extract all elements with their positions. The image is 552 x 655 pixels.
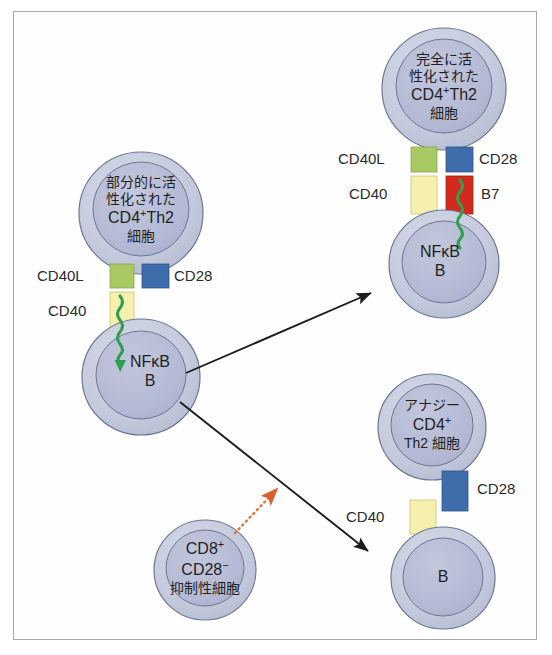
th2-full-th2: Th2: [449, 86, 477, 103]
anergy-cd4: CD4: [413, 416, 445, 433]
cd28-minus: −: [222, 559, 228, 571]
b-cell-unactivated-label: B: [438, 568, 449, 587]
cd40-label-top: CD40: [349, 186, 387, 201]
cd28-label-top: CD28: [479, 151, 517, 166]
cd40l-bar-left: [110, 264, 134, 288]
diagram-figure: 部分的に活 性化された CD4+Th2 細胞 NFκB B 完全に活 性化された…: [0, 0, 552, 655]
anergy-line3: Th2 細胞: [404, 435, 460, 452]
anergy-line1: アナジー: [404, 397, 460, 414]
th2-partial-th2: Th2: [146, 209, 174, 226]
th2-full-line1: 完全に活: [409, 51, 479, 68]
cd8-line3: 抑制性細胞: [170, 580, 240, 597]
cd8-plus: +: [218, 538, 224, 550]
th2-partial-line3: CD4+Th2: [106, 207, 176, 228]
b7-label-top: B7: [481, 186, 499, 201]
cd28-bar-anergy: [442, 471, 468, 511]
b-cell-left-b: B: [130, 372, 170, 391]
cd40l-bar-top: [411, 147, 437, 172]
th2-partial-line4: 細胞: [106, 228, 176, 245]
cd8-suppressor-cell-label: CD8+ CD28− 抑制性細胞: [170, 538, 240, 597]
anergy-line2: CD4+: [404, 413, 460, 434]
cd8-line2: CD28−: [170, 559, 240, 580]
th2-partial-line2: 性化された: [106, 190, 176, 207]
b-cell-left-nfkb: NFκB: [130, 353, 170, 372]
cd40-bar-top: [411, 176, 437, 214]
cd40-label-bottom: CD40: [346, 509, 384, 524]
th2-partial-cd4: CD4: [108, 209, 140, 226]
cd40-label-left: CD40: [48, 303, 86, 318]
suppression-arrow: [235, 489, 277, 533]
cd28-label-left: CD28: [174, 268, 212, 283]
th2-full-line2: 性化された: [409, 67, 479, 84]
cd8-line1: CD8+: [170, 538, 240, 559]
th2-full-line3: CD4+Th2: [409, 84, 479, 105]
b-cell-activated-nfkb: NFκB: [420, 243, 460, 262]
fully-activated-th2-cell-label: 完全に活 性化された CD4+Th2 細胞: [409, 51, 479, 122]
anergy-plus: +: [445, 413, 451, 425]
cd28-base: CD28: [181, 561, 222, 578]
b-cell-activated-label: NFκB B: [420, 243, 460, 281]
th2-full-cd4: CD4: [411, 86, 443, 103]
cd40l-label-left: CD40L: [37, 268, 84, 283]
cd28-bar-top: [446, 147, 473, 172]
anergic-th2-cell-label: アナジー CD4+ Th2 細胞: [404, 397, 460, 451]
th2-partial-line1: 部分的に活: [106, 174, 176, 191]
b-cell-activated-b: B: [420, 262, 460, 281]
th2-full-line4: 細胞: [409, 105, 479, 122]
cd28-label-anergy: CD28: [477, 481, 515, 496]
cd28-bar-left: [142, 264, 169, 288]
b-cell-unactivated-b: B: [438, 568, 449, 587]
partially-activated-th2-cell-label: 部分的に活 性化された CD4+Th2 細胞: [106, 174, 176, 245]
activation-arrow: [186, 293, 371, 373]
cd8-base: CD8: [186, 540, 218, 557]
cd40l-label-top: CD40L: [338, 151, 385, 166]
b-cell-left-label: NFκB B: [130, 353, 170, 391]
